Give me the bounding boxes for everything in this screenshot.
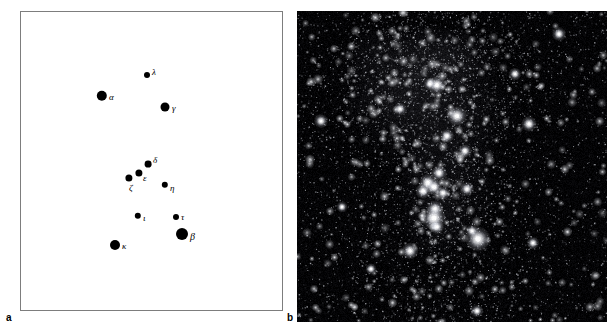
panel-letter-a: a <box>6 313 12 323</box>
star-label-iota: ι <box>143 214 146 223</box>
star-marker-beta <box>176 228 188 240</box>
star-marker-zeta <box>125 174 132 181</box>
panel-b-photograph <box>297 11 607 322</box>
star-label-gamma: γ <box>172 104 176 113</box>
star-label-kappa: κ <box>122 242 126 251</box>
star-marker-kappa <box>110 240 120 250</box>
star-marker-eta <box>162 182 168 188</box>
star-label-tau: τ <box>181 213 184 222</box>
star-label-eta: η <box>170 184 174 193</box>
star-marker-epsilon <box>135 169 142 176</box>
panel-letter-b: b <box>287 313 293 323</box>
star-label-beta: β <box>190 232 195 242</box>
star-label-epsilon: ε <box>143 174 147 183</box>
star-label-zeta: ζ <box>129 184 133 193</box>
star-marker-delta <box>145 161 152 168</box>
star-marker-lambda <box>144 72 150 78</box>
star-marker-iota <box>135 213 141 219</box>
star-label-delta: δ <box>153 156 157 165</box>
star-label-alpha: α <box>109 93 114 102</box>
star-marker-gamma <box>161 103 170 112</box>
panel-a-star-map: λαγδεζηιτβκ <box>20 11 283 311</box>
starfield-image <box>297 11 607 322</box>
star-marker-alpha <box>97 91 107 101</box>
star-label-lambda: λ <box>152 68 156 77</box>
two-panel-astronomy-figure: λαγδεζηιτβκ a b <box>0 0 612 336</box>
star-marker-tau <box>173 214 179 220</box>
